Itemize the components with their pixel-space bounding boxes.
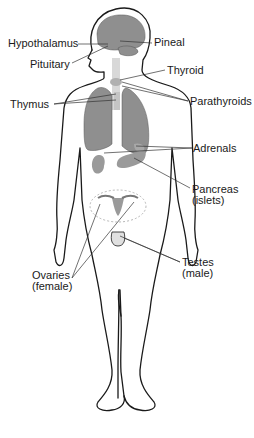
label-pituitary: Pituitary: [30, 59, 70, 70]
label-pineal: Pineal: [154, 37, 185, 48]
label-pancreas: Pancreas (islets): [192, 184, 238, 206]
left-kidney: [92, 155, 105, 174]
label-testes: Testes (male): [182, 257, 214, 279]
label-hypothalamus: Hypothalamus: [8, 38, 78, 49]
label-adrenals: Adrenals: [193, 143, 236, 154]
uterus: [112, 198, 124, 216]
label-ovaries: Ovaries (female): [32, 270, 72, 292]
testes-gland: [111, 232, 125, 246]
thymus-gland: [114, 92, 120, 110]
fallopian-tubes: [98, 196, 138, 198]
pancreas-gland: [117, 150, 146, 168]
label-ovaries-line2: (female): [32, 281, 72, 292]
label-pancreas-line2: (islets): [192, 195, 238, 206]
label-parathyroids: Parathyroids: [190, 96, 252, 107]
thyroid-gland: [110, 78, 122, 86]
label-thyroid: Thyroid: [167, 65, 204, 76]
label-thymus: Thymus: [10, 99, 49, 110]
brain: [97, 15, 145, 50]
label-testes-line2: (male): [182, 268, 214, 279]
